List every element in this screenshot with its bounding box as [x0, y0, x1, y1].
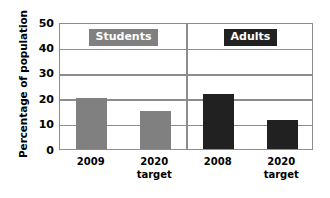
group-divider — [186, 24, 188, 149]
x-tick-label-line1: 2009 — [77, 156, 105, 167]
bar — [203, 94, 234, 149]
x-tick-label: 2008 — [188, 155, 248, 168]
x-tick-label-line2: target — [124, 168, 184, 181]
bar — [267, 120, 298, 149]
gridline — [60, 49, 312, 51]
y-axis-tick-labels: 50403020100 — [28, 0, 54, 198]
x-tick-label-line1: 2020 — [267, 156, 295, 167]
gridline — [60, 74, 312, 76]
plot-area: StudentsAdults — [59, 23, 313, 150]
y-tick-label: 50 — [28, 18, 54, 29]
bar — [140, 111, 171, 149]
group-badge-adults: Adults — [224, 29, 278, 46]
y-tick-label: 0 — [28, 145, 54, 156]
bar-chart: Percentage of population 50403020100 Stu… — [0, 0, 330, 198]
x-tick-label: 2020target — [124, 155, 184, 181]
x-tick-label: 2020target — [251, 155, 311, 181]
x-tick-label-line2: target — [251, 168, 311, 181]
x-tick-label: 2009 — [61, 155, 121, 168]
group-badge-students: Students — [89, 29, 159, 46]
y-tick-label: 10 — [28, 119, 54, 130]
x-tick-label-line1: 2020 — [140, 156, 168, 167]
x-tick-label-line1: 2008 — [204, 156, 232, 167]
y-tick-label: 20 — [28, 94, 54, 105]
y-tick-label: 40 — [28, 43, 54, 54]
bar — [76, 98, 107, 149]
y-tick-label: 30 — [28, 68, 54, 79]
